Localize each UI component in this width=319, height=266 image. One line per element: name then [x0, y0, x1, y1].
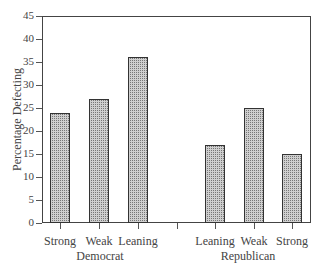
- y-tick-label: 35: [4, 56, 34, 67]
- x-tick: [60, 223, 61, 229]
- y-tick: [36, 223, 42, 224]
- y-tick-label: 0: [4, 217, 34, 228]
- x-tick: [138, 223, 139, 229]
- x-tick: [177, 223, 178, 229]
- x-group-democrat: Democrat: [55, 249, 145, 264]
- y-tick: [36, 154, 42, 155]
- y-tick-label: 40: [4, 33, 34, 44]
- y-tick-label: 45: [4, 10, 34, 21]
- bar-weak: [89, 99, 109, 223]
- y-tick: [36, 85, 42, 86]
- y-tick: [36, 16, 42, 17]
- x-tick: [292, 223, 293, 229]
- x-label-dem-leaning: Leaning: [113, 234, 163, 249]
- y-tick-label: 10: [4, 171, 34, 182]
- x-label-rep-strong: Strong: [267, 234, 317, 249]
- bar-leaning: [128, 57, 148, 223]
- y-tick: [36, 39, 42, 40]
- y-tick: [36, 108, 42, 109]
- y-tick: [36, 62, 42, 63]
- bar-weak: [244, 108, 264, 223]
- bar-strong: [282, 154, 302, 223]
- y-tick-label: 20: [4, 125, 34, 136]
- y-tick-label: 25: [4, 102, 34, 113]
- bar-strong: [50, 113, 70, 223]
- bar-leaning: [205, 145, 225, 223]
- y-tick-label: 15: [4, 148, 34, 159]
- y-tick-label: 5: [4, 194, 34, 205]
- x-tick: [99, 223, 100, 229]
- x-tick: [254, 223, 255, 229]
- plot-area: [42, 16, 311, 223]
- x-group-republican: Republican: [203, 249, 293, 264]
- y-tick: [36, 200, 42, 201]
- x-tick: [215, 223, 216, 229]
- y-tick: [36, 177, 42, 178]
- y-tick-label: 30: [4, 79, 34, 90]
- y-tick: [36, 131, 42, 132]
